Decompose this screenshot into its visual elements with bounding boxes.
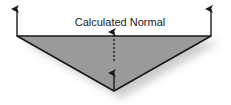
calculated-normal-label: Calculated Normal bbox=[70, 16, 170, 28]
